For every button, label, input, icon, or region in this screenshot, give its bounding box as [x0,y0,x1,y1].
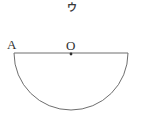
semicircle-arc [14,53,128,110]
label-point-o: O [66,38,75,53]
center-point-dot [70,53,73,56]
geometry-figure: ウ A O [0,0,143,119]
label-point-a: A [7,37,17,52]
semicircle-diagram: A O [0,0,143,119]
